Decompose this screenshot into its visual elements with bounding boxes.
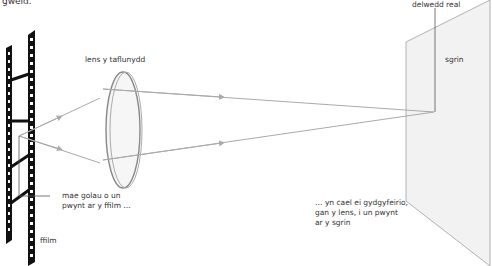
lens-label: lens y taflunydd <box>85 55 145 65</box>
real-image-label: delwedd real <box>412 0 460 10</box>
projector-diagram <box>0 0 492 266</box>
converging-rays <box>103 89 434 160</box>
screen-label: sgrin <box>445 55 464 65</box>
film-label: ffilm <box>40 236 57 246</box>
film-strip-icon <box>6 30 35 266</box>
screen <box>406 0 490 266</box>
converge-caption: … yn cael ei gydgyfeirio, gan y lens, i … <box>315 198 408 228</box>
film-point-caption: mae golau o un pwynt ar y ffilm … <box>62 191 131 211</box>
